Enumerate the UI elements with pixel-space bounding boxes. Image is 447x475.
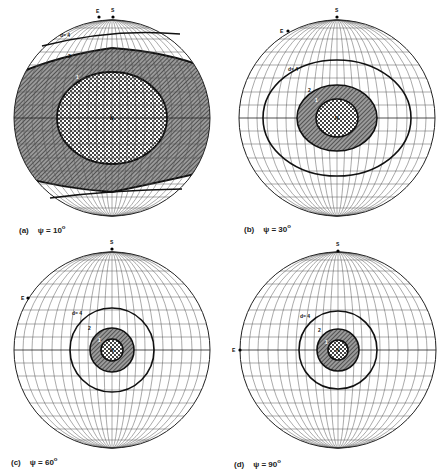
caption-label: (d) [234,460,244,469]
caption-label: (a) [19,226,29,235]
contour-label-d4: d= 4 [300,313,310,319]
pole-s-marker [335,15,338,18]
pole-e-label: E [96,8,100,14]
degree-sign: o [277,458,281,464]
pole-e-label: E [280,28,284,34]
contour-label-d2: 2 [318,327,321,333]
pole-e-label: E [21,295,25,301]
caption-label: (b) [244,225,254,234]
contour-label-d4: d= 4 [288,66,298,72]
caption-label: (c) [11,458,21,467]
pole-s-label: S [111,7,115,13]
center-label-n: N [336,347,340,353]
pole-e-marker [238,348,241,351]
pole-s-label: S [335,7,339,13]
pole-e-marker [97,15,100,18]
caption-psi: ψ = 90 [253,460,277,469]
caption-psi: ψ = 30 [263,225,287,234]
pole-s-marker [336,249,339,252]
pole-s-marker [110,247,113,250]
center-label-n: N [110,115,114,121]
contour-label-d1: 1 [325,339,328,345]
pole-s-label: S [110,239,114,245]
center-label-n: N [335,115,339,121]
caption-a: (a)ψ = 10o [19,224,66,235]
contour-label-d1: 1 [315,97,318,103]
degree-sign: o [287,223,291,229]
contour-label-d2: 2 [308,87,311,93]
pole-s-marker [111,15,114,18]
figure-canvas: E S d= 4 2 1 N E S d= 4 2 1 N E S d= 4 2… [0,0,447,475]
pole-s-label: S [336,241,340,247]
contour-label-d1: 1 [76,74,79,80]
degree-sign: o [62,224,66,230]
contour-label-d2: 2 [68,53,71,59]
caption-d: (d)ψ = 90o [234,458,281,469]
caption-b: (b)ψ = 30o [244,223,291,234]
center-label-n: N [110,347,114,353]
pole-e-marker [286,29,289,32]
contour-label-d4: d= 4 [60,32,70,38]
caption-psi: ψ = 60 [30,458,54,467]
degree-sign: o [54,456,58,462]
caption-psi: ψ = 10 [38,226,62,235]
contour-label-d1: 1 [98,337,101,343]
contour-label-d4: d= 4 [72,310,82,316]
pole-e-label: E [232,347,236,353]
contour-label-d2: 2 [88,325,91,331]
caption-c: (c)ψ = 60o [11,456,58,467]
pole-e-marker [26,296,29,299]
